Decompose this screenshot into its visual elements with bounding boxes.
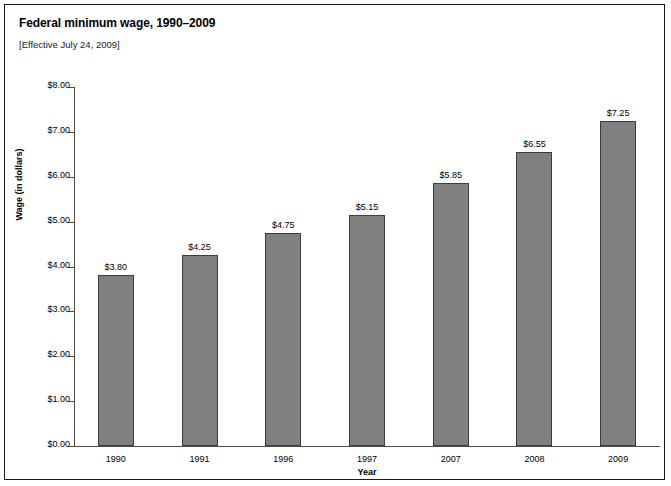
y-tick-label: $7.00 xyxy=(47,125,70,135)
bar-group[interactable]: $3.801990 xyxy=(74,87,158,446)
page-title: Federal minimum wage, 1990–2009 xyxy=(19,16,215,30)
bar-group[interactable]: $4.751996 xyxy=(241,87,325,446)
bar-value-label: $5.15 xyxy=(356,202,379,212)
bar[interactable] xyxy=(433,183,469,446)
y-axis-title: Wage (in dollars) xyxy=(12,5,26,364)
y-tick-label: $2.00 xyxy=(47,349,70,359)
bar[interactable] xyxy=(182,255,218,446)
y-tick-label: $0.00 xyxy=(47,439,70,449)
bar-group[interactable]: $6.552008 xyxy=(493,87,577,446)
chart-subtitle: [Effective July 24, 2009] xyxy=(19,39,120,50)
x-tick-label: 2009 xyxy=(608,454,628,464)
bar-group[interactable]: $7.252009 xyxy=(576,87,660,446)
bar-value-label: $4.25 xyxy=(188,242,211,252)
y-tick-label: $8.00 xyxy=(47,80,70,90)
bar-value-label: $3.80 xyxy=(105,262,128,272)
bar[interactable] xyxy=(349,215,385,446)
y-tick-label: $3.00 xyxy=(47,304,70,314)
bar-group[interactable]: $4.251991 xyxy=(158,87,242,446)
bar-series: $3.801990$4.251991$4.751996$5.151997$5.8… xyxy=(74,87,660,446)
chart-page: Federal minimum wage, 1990–2009 [Effecti… xyxy=(0,0,671,486)
x-tick-label: 1997 xyxy=(357,454,377,464)
bar[interactable] xyxy=(265,233,301,446)
bar-group[interactable]: $5.852007 xyxy=(409,87,493,446)
x-tick-label: 1996 xyxy=(273,454,293,464)
bar-value-label: $4.75 xyxy=(272,220,295,230)
x-axis-line xyxy=(74,446,660,447)
x-tick-label: 2008 xyxy=(524,454,544,464)
bar-value-label: $5.85 xyxy=(439,170,462,180)
bar-value-label: $7.25 xyxy=(607,108,630,118)
figure-frame: Federal minimum wage, 1990–2009 [Effecti… xyxy=(4,4,665,480)
bar[interactable] xyxy=(98,275,134,446)
x-tick-label: 2007 xyxy=(441,454,461,464)
bar[interactable] xyxy=(516,152,552,446)
bar-value-label: $6.55 xyxy=(523,139,546,149)
bar-group[interactable]: $5.151997 xyxy=(325,87,409,446)
x-tick-label: 1990 xyxy=(106,454,126,464)
y-tick-label: $1.00 xyxy=(47,394,70,404)
y-tick-label: $6.00 xyxy=(47,170,70,180)
bar[interactable] xyxy=(600,121,636,446)
y-tick-label: $4.00 xyxy=(47,260,70,270)
x-axis-title: Year xyxy=(74,467,660,477)
y-tick-label: $5.00 xyxy=(47,215,70,225)
x-tick-label: 1991 xyxy=(190,454,210,464)
plot-area: $3.801990$4.251991$4.751996$5.151997$5.8… xyxy=(74,87,660,446)
